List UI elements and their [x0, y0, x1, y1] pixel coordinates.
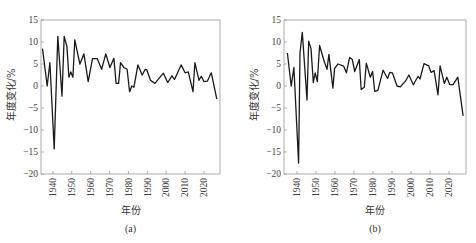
y-tick-label: 0: [33, 81, 38, 91]
x-tick-label: 1960: [330, 178, 340, 197]
y-tick-label: −15: [266, 147, 281, 157]
y-tick-label: −10: [23, 125, 38, 135]
x-tick-label: 1960: [86, 178, 96, 197]
y-tick-label: 0: [276, 81, 281, 91]
chart-panel-a: 151050−5−10−15−2019401950196019701980199…: [5, 15, 220, 235]
y-tick-label: 5: [276, 59, 281, 69]
y-tick-label: −5: [271, 103, 281, 113]
x-tick-label: 1990: [387, 178, 397, 197]
x-tick-label: 1950: [67, 178, 77, 197]
x-axis-title: 年份: [365, 204, 385, 216]
x-tick-label: 2020: [199, 178, 209, 197]
y-tick-label: 5: [33, 59, 38, 69]
figure: 151050−5−10−15−2019401950196019701980199…: [0, 0, 476, 243]
y-axis-title: 年度变化/%: [5, 69, 17, 122]
y-tick-label: 15: [29, 15, 39, 25]
y-tick-label: −20: [23, 169, 38, 179]
y-tick-label: −5: [28, 103, 38, 113]
x-tick-label: 1980: [368, 178, 378, 197]
x-tick-label: 1970: [105, 178, 115, 197]
x-tick-label: 2010: [425, 178, 435, 197]
y-tick-label: 10: [272, 37, 282, 47]
x-tick-label: 1940: [292, 178, 302, 197]
panel-caption: (a): [125, 223, 136, 235]
chart-panel-b: 151050−5−10−15−2019401950196019701980199…: [248, 15, 466, 235]
x-tick-label: 1970: [349, 178, 359, 197]
x-tick-label: 2000: [406, 178, 416, 197]
panel-caption: (b): [369, 223, 381, 235]
data-line: [287, 32, 463, 163]
x-axis-title: 年份: [121, 204, 141, 216]
y-tick-label: 10: [29, 37, 39, 47]
x-tick-label: 1980: [124, 178, 134, 197]
x-tick-label: 2000: [161, 178, 171, 197]
x-tick-label: 2020: [444, 178, 454, 197]
y-tick-label: −20: [266, 169, 281, 179]
x-tick-label: 1990: [143, 178, 153, 197]
y-tick-label: −15: [23, 147, 38, 157]
x-tick-label: 1950: [311, 178, 321, 197]
y-axis-title: 年度变化/%: [248, 69, 260, 122]
plot-frame: [41, 20, 220, 174]
x-tick-label: 1940: [48, 178, 58, 197]
y-tick-label: 15: [272, 15, 282, 25]
y-tick-label: −10: [266, 125, 281, 135]
data-line: [43, 36, 217, 149]
x-tick-label: 2010: [180, 178, 190, 197]
plot-frame: [284, 20, 466, 174]
